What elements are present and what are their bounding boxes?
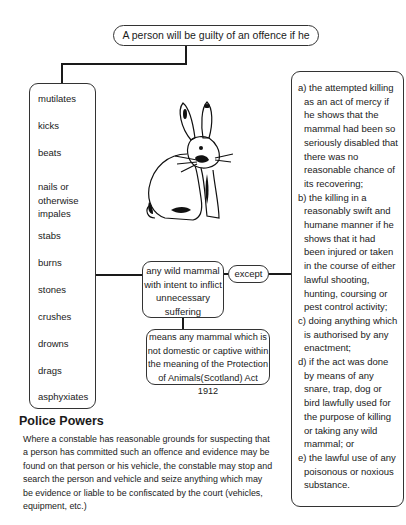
- rabbit-illustration: [135, 98, 235, 228]
- exception-item: d) if the act was done by means of any s…: [298, 355, 399, 451]
- action-item: drags: [38, 364, 62, 378]
- action-item: stones: [38, 283, 66, 297]
- connector-left-down: [61, 63, 63, 83]
- wild-mammal-text: any wild mammal with intent to inflict u…: [144, 265, 222, 317]
- wild-mammal-box: any wild mammal with intent to inflict u…: [142, 261, 224, 318]
- exception-item: b) the killing in a reasonably swift and…: [298, 191, 399, 314]
- definition-text: means any mammal which is not domestic o…: [148, 332, 269, 396]
- action-item: asphyxiates: [38, 390, 88, 404]
- connector-top-horizontal: [61, 63, 187, 65]
- action-item: crushes: [38, 310, 71, 324]
- exception-item: c) doing anything which is authorised by…: [298, 314, 399, 355]
- police-powers-text: Where a constable has reasonable grounds…: [23, 433, 273, 513]
- offence-statement: A person will be guilty of an offence if…: [122, 29, 309, 41]
- exceptions-list: a) the attempted killing as an act of me…: [291, 71, 404, 507]
- police-powers-heading: Police Powers: [19, 414, 104, 428]
- except-label: except: [235, 268, 263, 279]
- action-item: nails or otherwise impales: [38, 180, 94, 221]
- action-item: kicks: [38, 119, 59, 133]
- except-label-box: except: [228, 265, 269, 283]
- action-item: beats: [38, 146, 61, 160]
- action-item: mutilates: [38, 92, 76, 106]
- definition-box: means any mammal which is not domestic o…: [146, 329, 270, 385]
- action-item: drowns: [38, 337, 69, 351]
- exception-item: e) the lawful use of any poisonous or no…: [298, 451, 399, 492]
- action-item: burns: [38, 256, 62, 270]
- connector-list-to-object: [96, 274, 142, 276]
- offence-statement-box: A person will be guilty of an offence if…: [113, 25, 319, 46]
- actions-list: mutilates kicks beats nails or otherwise…: [29, 83, 96, 409]
- action-item: stabs: [38, 229, 61, 243]
- exception-item: a) the attempted killing as an act of me…: [298, 81, 399, 191]
- connector-object-to-definition: [182, 318, 184, 329]
- connector-except-to-exceptions: [269, 273, 291, 275]
